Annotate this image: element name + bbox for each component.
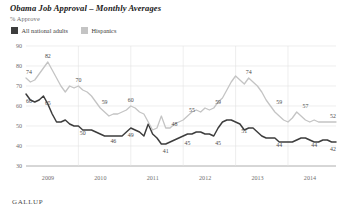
chart-subtitle: % Approve [10,15,40,22]
source-attribution: GALLUP [12,198,43,206]
data-point-label: 57 [302,103,308,109]
data-point-label: 55 [189,107,195,113]
x-axis-tick-label: 2014 [304,175,316,181]
series-line-hispanics [26,62,336,130]
chart-legend: All national adults Hispanics [11,27,116,34]
legend-label-all-national-adults: All national adults [22,27,69,34]
x-axis-tick-label: 2009 [42,175,54,181]
plot-area: 3040506070809020092010201120122013201466… [0,40,342,190]
data-point-label: 60 [128,97,134,103]
legend-label-hispanics: Hispanics [92,27,117,34]
data-point-label: 45 [185,140,191,146]
data-point-label: 52 [330,113,336,119]
data-point-label: 50 [80,130,86,136]
data-point-label: 59 [102,99,108,105]
data-point-label: 42 [330,146,336,152]
data-point-label: 70 [75,77,81,83]
legend-swatch-hispanics [81,27,88,34]
x-axis-tick-label: 2012 [199,175,211,181]
y-axis-tick-label: 60 [16,103,22,109]
series-line-all-national-adults [26,94,336,144]
legend-swatch-all-national-adults [11,27,18,34]
legend-item-hispanics[interactable]: Hispanics [81,27,116,34]
data-point-label: 51 [241,128,247,134]
y-axis-tick-label: 80 [16,63,22,69]
y-axis-tick-label: 30 [16,163,22,169]
data-point-label: 82 [45,53,51,59]
data-point-label: 66 [26,98,32,104]
y-axis-tick-label: 50 [16,123,22,129]
data-point-label: 65 [45,100,51,106]
data-point-label: 46 [110,138,116,144]
data-point-label: 44 [311,142,317,148]
x-axis-tick-label: 2011 [147,175,159,181]
data-point-label: 49 [128,132,134,138]
x-axis-tick-label: 2010 [94,175,106,181]
data-point-label: 48 [172,121,178,127]
y-axis-tick-label: 70 [16,83,22,89]
line-chart-svg: 3040506070809020092010201120122013201466… [0,40,342,190]
data-point-label: 59 [215,99,221,105]
page-title: Obama Job Approval – Monthly Averages [10,3,161,13]
data-point-label: 59 [276,99,282,105]
data-point-label: 74 [26,69,32,75]
data-point-label: 41 [163,148,169,154]
legend-item-all-national-adults[interactable]: All national adults [11,27,68,34]
x-axis-tick-label: 2013 [251,175,263,181]
chart-card: Obama Job Approval – Monthly Averages % … [0,0,342,218]
data-point-label: 44 [276,142,282,148]
data-point-label: 45 [215,140,221,146]
y-axis-tick-label: 90 [16,43,22,49]
data-point-label: 74 [246,69,252,75]
y-axis-tick-label: 40 [16,143,22,149]
